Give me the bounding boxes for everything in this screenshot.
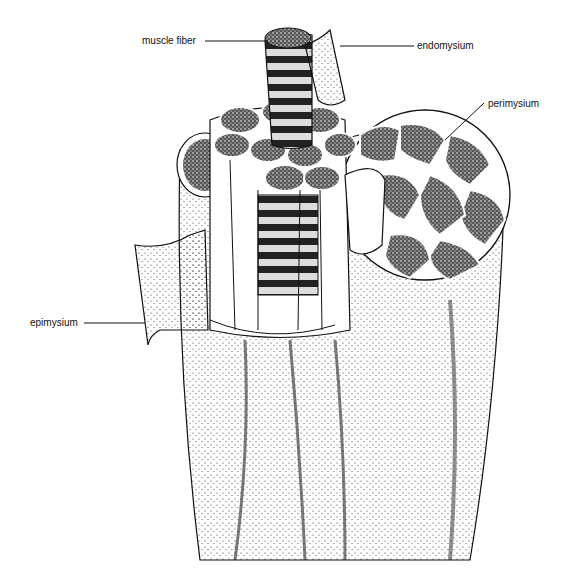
label-epimysium: epimysium	[30, 317, 78, 329]
single-muscle-fiber	[265, 32, 312, 148]
label-muscle-fiber: muscle fiber	[142, 35, 196, 47]
label-endomysium: endomysium	[417, 40, 474, 52]
epimysium-flap	[135, 230, 208, 345]
muscle-illustration	[0, 0, 578, 581]
label-perimysium: perimysium	[488, 98, 539, 110]
muscle-diagram: muscle fiber endomysium perimysium epimy…	[0, 0, 578, 581]
striated-fiber	[258, 195, 318, 295]
